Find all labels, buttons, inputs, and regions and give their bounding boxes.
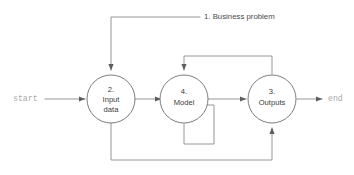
edge-label-business-problem: 1. Business problem [204,12,275,21]
edge-outputs-to-model-feedback [184,56,272,74]
node-input-data-number: 2. [108,85,114,94]
diagram-canvas: 2. Input data 4. Model 3. Outputs 1. Bus… [0,0,354,175]
node-input-data[interactable]: 2. Input data [87,75,135,123]
terminal-label-end: end [328,94,343,103]
edge-business-problem-to-input [111,17,200,70]
node-model-line1: Model [174,98,195,107]
terminal-label-start: start [13,94,38,103]
node-model[interactable]: 4. Model [160,75,208,123]
node-outputs-line1: Outputs [259,98,286,107]
flowchart-diagram: 2. Input data 4. Model 3. Outputs 1. Bus… [0,0,354,175]
node-outputs-number: 3. [269,87,275,96]
node-input-data-line1: Input [103,95,121,104]
node-input-data-line2: data [104,105,120,114]
node-outputs[interactable]: 3. Outputs [248,75,296,123]
edge-input-to-outputs-feedback [111,123,272,160]
node-model-number: 4. [181,87,187,96]
